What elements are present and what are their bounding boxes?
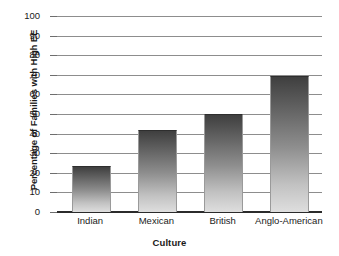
y-tick-mark (50, 134, 57, 135)
x-axis-category-labels: IndianMexicanBritishAnglo-American (57, 215, 322, 229)
y-tick-label: 80 (16, 50, 40, 60)
y-tick-mark (50, 212, 57, 213)
y-tick-label: 70 (16, 70, 40, 80)
bar-mexican (138, 130, 177, 212)
y-tick-mark (50, 153, 57, 154)
y-tick-mark (50, 94, 57, 95)
bar-indian (72, 166, 111, 212)
y-tick-label: 100 (16, 11, 40, 21)
y-tick-label: 60 (16, 89, 40, 99)
y-tick-mark (50, 192, 57, 193)
y-tick-mark (50, 55, 57, 56)
y-tick-label: 50 (16, 109, 40, 119)
bar-chart: Percentage of Families with High EE 0102… (0, 0, 339, 256)
x-tick-label: Anglo-American (229, 215, 339, 227)
bar-anglo-american (270, 76, 309, 212)
bars-layer (57, 16, 322, 212)
bar-british (204, 114, 243, 212)
y-tick-mark (50, 173, 57, 174)
y-tick-label: 30 (16, 148, 40, 158)
y-tick-label: 10 (16, 187, 40, 197)
y-tick-mark (50, 114, 57, 115)
y-tick-label: 40 (16, 129, 40, 139)
plot-area (57, 16, 322, 212)
y-tick-label: 90 (16, 31, 40, 41)
y-tick-mark (50, 36, 57, 37)
x-axis-title: Culture (0, 237, 339, 248)
y-tick-label: 20 (16, 168, 40, 178)
y-tick-mark (50, 16, 57, 17)
y-tick-mark (50, 75, 57, 76)
